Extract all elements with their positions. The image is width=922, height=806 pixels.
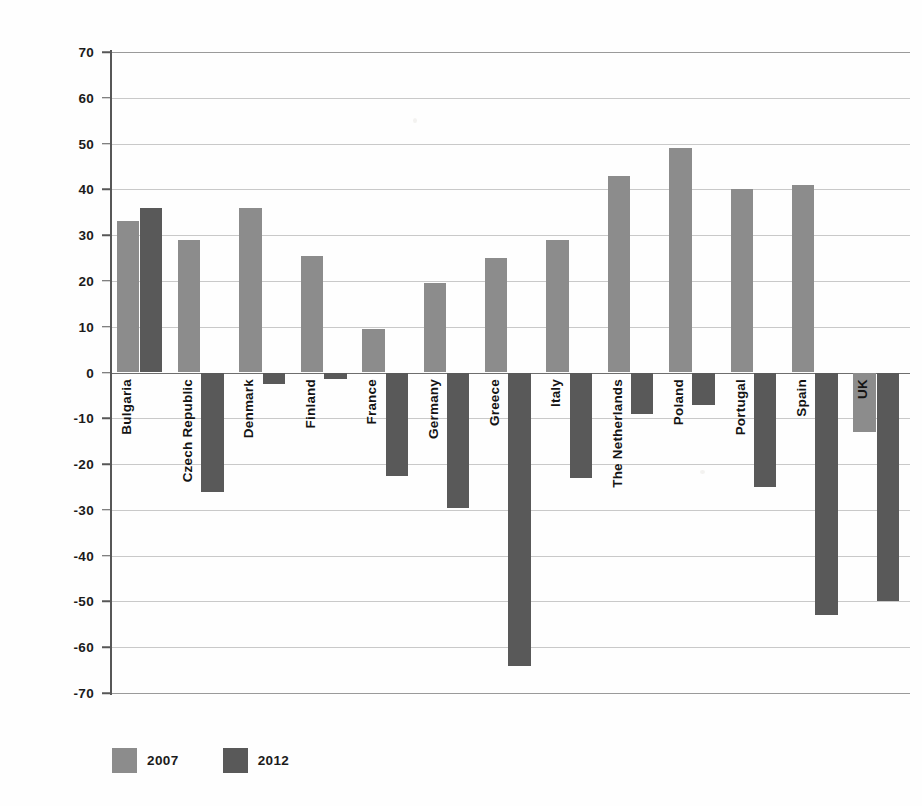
bar[interactable]	[877, 373, 899, 602]
y-tick-mark	[102, 646, 111, 648]
plot-area: BulgariaCzech RepublicDenmarkFinlandFran…	[112, 52, 910, 693]
bar[interactable]	[447, 373, 469, 508]
bar[interactable]	[731, 189, 753, 372]
bar[interactable]	[546, 240, 568, 373]
category-label: Germany	[426, 379, 441, 439]
category-label: The Netherlands	[610, 379, 625, 488]
y-tick-mark	[102, 280, 111, 282]
legend-item[interactable]: 2007	[112, 748, 179, 773]
chart-legend: 20072012	[112, 748, 289, 773]
gridline	[112, 693, 910, 694]
y-tick-mark	[102, 601, 111, 603]
y-tick-mark	[102, 189, 111, 191]
y-tick-mark	[102, 143, 111, 145]
y-tick-mark	[102, 372, 111, 374]
category-label: Poland	[671, 379, 686, 425]
y-tick-label: -10	[74, 411, 94, 426]
y-tick-label: -30	[74, 502, 94, 517]
y-tick-label: -50	[74, 594, 94, 609]
bar[interactable]	[362, 329, 384, 372]
bar[interactable]	[117, 221, 139, 372]
y-tick-label: -70	[74, 686, 94, 701]
legend-swatch	[223, 748, 248, 773]
category-label: UK	[855, 379, 870, 399]
bar-group: France	[362, 52, 409, 693]
y-tick-mark	[102, 418, 111, 420]
bar-group: Poland	[669, 52, 716, 693]
y-tick-label: 20	[78, 273, 94, 288]
chart-page: 706050403020100-10-20-30-40-50-60-70 Bul…	[0, 0, 922, 806]
y-axis-ticks: 706050403020100-10-20-30-40-50-60-70	[0, 0, 108, 806]
y-tick-label: 60	[78, 90, 94, 105]
category-label: Spain	[794, 379, 809, 417]
legend-item[interactable]: 2012	[223, 748, 290, 773]
bar-group: Italy	[546, 52, 593, 693]
y-tick-mark	[102, 509, 111, 511]
y-tick-mark	[102, 555, 111, 557]
bar[interactable]	[754, 373, 776, 487]
category-label: Italy	[548, 379, 563, 407]
bar-group: Finland	[301, 52, 348, 693]
bar[interactable]	[178, 240, 200, 373]
y-tick-mark	[102, 692, 111, 694]
bar[interactable]	[485, 258, 507, 372]
bar[interactable]	[508, 373, 530, 666]
bar[interactable]	[424, 283, 446, 372]
legend-label: 2007	[147, 753, 179, 768]
bar-group: The Netherlands	[608, 52, 655, 693]
y-tick-label: 30	[78, 228, 94, 243]
bar-group: Denmark	[239, 52, 286, 693]
bar[interactable]	[570, 373, 592, 478]
legend-label: 2012	[258, 753, 290, 768]
category-label: Finland	[303, 379, 318, 428]
bar-group: Spain	[792, 52, 839, 693]
category-label: Greece	[487, 379, 502, 426]
bar-group: Germany	[424, 52, 471, 693]
bar[interactable]	[140, 208, 162, 373]
y-tick-label: -20	[74, 457, 94, 472]
y-tick-mark	[102, 234, 111, 236]
y-tick-label: 40	[78, 182, 94, 197]
y-tick-label: 50	[78, 136, 94, 151]
bar[interactable]	[201, 373, 223, 492]
bar[interactable]	[669, 148, 691, 372]
y-tick-label: 10	[78, 319, 94, 334]
y-tick-label: -40	[74, 548, 94, 563]
y-tick-label: -60	[74, 640, 94, 655]
bar-group: Bulgaria	[117, 52, 164, 693]
category-label: Bulgaria	[119, 379, 134, 435]
bar[interactable]	[792, 185, 814, 373]
bar-group: Czech Republic	[178, 52, 225, 693]
bar[interactable]	[386, 373, 408, 476]
bar[interactable]	[324, 373, 346, 380]
bar[interactable]	[239, 208, 261, 373]
y-tick-mark	[102, 326, 111, 328]
y-tick-mark	[102, 51, 111, 53]
category-label: Czech Republic	[180, 379, 195, 482]
bar[interactable]	[608, 176, 630, 373]
y-tick-mark	[102, 463, 111, 465]
bar[interactable]	[263, 373, 285, 384]
bar-group: UK	[853, 52, 900, 693]
bar[interactable]	[301, 256, 323, 373]
bar-group: Greece	[485, 52, 532, 693]
category-label: France	[364, 379, 379, 424]
legend-swatch	[112, 748, 137, 773]
category-label: Portugal	[733, 379, 748, 435]
category-label: Denmark	[241, 379, 256, 438]
bar[interactable]	[692, 373, 714, 405]
y-tick-mark	[102, 97, 111, 99]
bar[interactable]	[631, 373, 653, 414]
y-tick-label: 70	[78, 45, 94, 60]
bar-group: Portugal	[731, 52, 778, 693]
y-tick-label: 0	[86, 365, 94, 380]
bar[interactable]	[815, 373, 837, 616]
